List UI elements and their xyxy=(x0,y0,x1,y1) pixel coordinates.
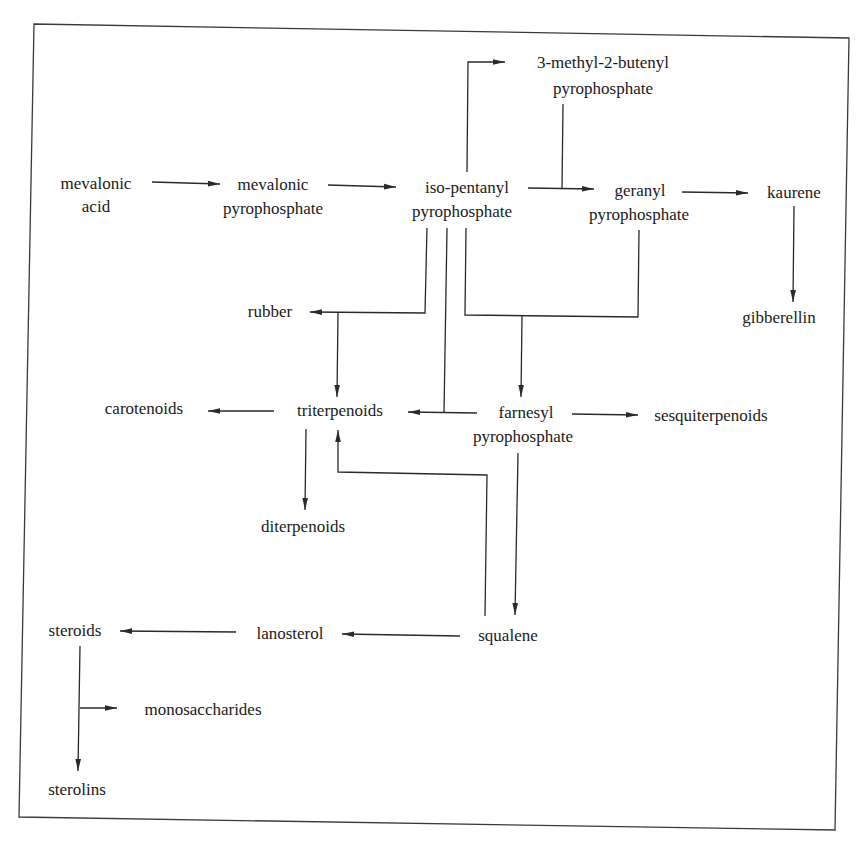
node-monosaccharides: monosaccharides xyxy=(144,700,261,719)
arrow-farnesyl-to-triterpenoids xyxy=(408,412,477,413)
nodes: mevalonic acid mevalonic pyrophosphate i… xyxy=(48,53,821,799)
node-steroids: steroids xyxy=(49,621,102,640)
node-label: iso-pentanyl xyxy=(425,178,509,197)
node-label: pyrophosphate xyxy=(589,205,689,224)
arrow-geranyl-to-kaurene xyxy=(682,192,748,193)
line-isopentanyl-geranyl-merge xyxy=(465,228,639,317)
node-squalene: squalene xyxy=(478,626,537,645)
terpenoid-pathway-diagram: mevalonic acid mevalonic pyrophosphate i… xyxy=(0,0,867,847)
node-sterolins: sterolins xyxy=(48,780,106,799)
arrow-triterpenoids-to-diterpenoids xyxy=(305,429,306,510)
node-label: pyrophosphate xyxy=(553,79,653,98)
node-isopentanyl-pyrophosphate: iso-pentanyl pyrophosphate xyxy=(412,178,512,221)
node-label: pyrophosphate xyxy=(412,202,512,221)
node-label: pyrophosphate xyxy=(473,427,573,446)
arrow-rubber-junction-to-triterpenoids xyxy=(337,312,338,397)
node-label: geranyl xyxy=(615,181,666,200)
arrow-isopentanyl-to-methylbutenyl xyxy=(467,62,505,172)
line-isopentanyl-to-farnesyl-junction xyxy=(444,228,447,413)
arrow-mevalonic-acid-to-mevalonic-pp xyxy=(152,182,220,184)
node-label: mevalonic xyxy=(238,175,309,194)
node-label: acid xyxy=(82,197,111,216)
node-triterpenoids: triterpenoids xyxy=(297,401,383,420)
line-methylbutenyl-to-geranyl xyxy=(562,104,563,189)
node-farnesyl-pyrophosphate: farnesyl pyrophosphate xyxy=(473,403,573,446)
arrow-farnesyl-to-squalene xyxy=(515,453,518,615)
arrow-isopentanyl-to-geranyl xyxy=(528,188,594,189)
arrow-lanosterol-to-steroids xyxy=(120,631,236,632)
arrow-squalene-to-lanosterol xyxy=(342,634,460,636)
arrow-squalene-to-triterpenoids xyxy=(338,430,487,616)
arrow-farnesyl-to-sesquiterpenoids xyxy=(572,414,638,415)
node-label: pyrophosphate xyxy=(223,199,323,218)
arrow-isopentanyl-to-rubber xyxy=(310,228,427,313)
node-mevalonic-acid: mevalonic acid xyxy=(61,174,132,216)
node-carotenoids: carotenoids xyxy=(105,399,183,418)
node-label: mevalonic xyxy=(61,174,132,193)
node-methylbutenyl-pyrophosphate: 3-methyl-2-butenyl pyrophosphate xyxy=(537,53,669,98)
arrow-merge-to-farnesyl xyxy=(521,316,522,397)
node-gibberellin: gibberellin xyxy=(742,308,816,327)
node-diterpenoids: diterpenoids xyxy=(261,517,345,536)
node-geranyl-pyrophosphate: geranyl pyrophosphate xyxy=(589,181,689,224)
node-sesquiterpenoids: sesquiterpenoids xyxy=(654,406,767,425)
arrow-kaurene-to-gibberellin xyxy=(793,206,794,302)
arrow-mevalonic-pp-to-isopentanyl-pp xyxy=(328,185,396,187)
node-rubber: rubber xyxy=(248,302,293,321)
node-label: 3-methyl-2-butenyl xyxy=(537,53,669,72)
node-mevalonic-pyrophosphate: mevalonic pyrophosphate xyxy=(223,175,323,218)
arrow-steroids-to-sterolins xyxy=(78,646,80,771)
node-kaurene: kaurene xyxy=(767,183,821,202)
node-label: farnesyl xyxy=(499,403,554,422)
node-lanosterol: lanosterol xyxy=(256,624,323,643)
